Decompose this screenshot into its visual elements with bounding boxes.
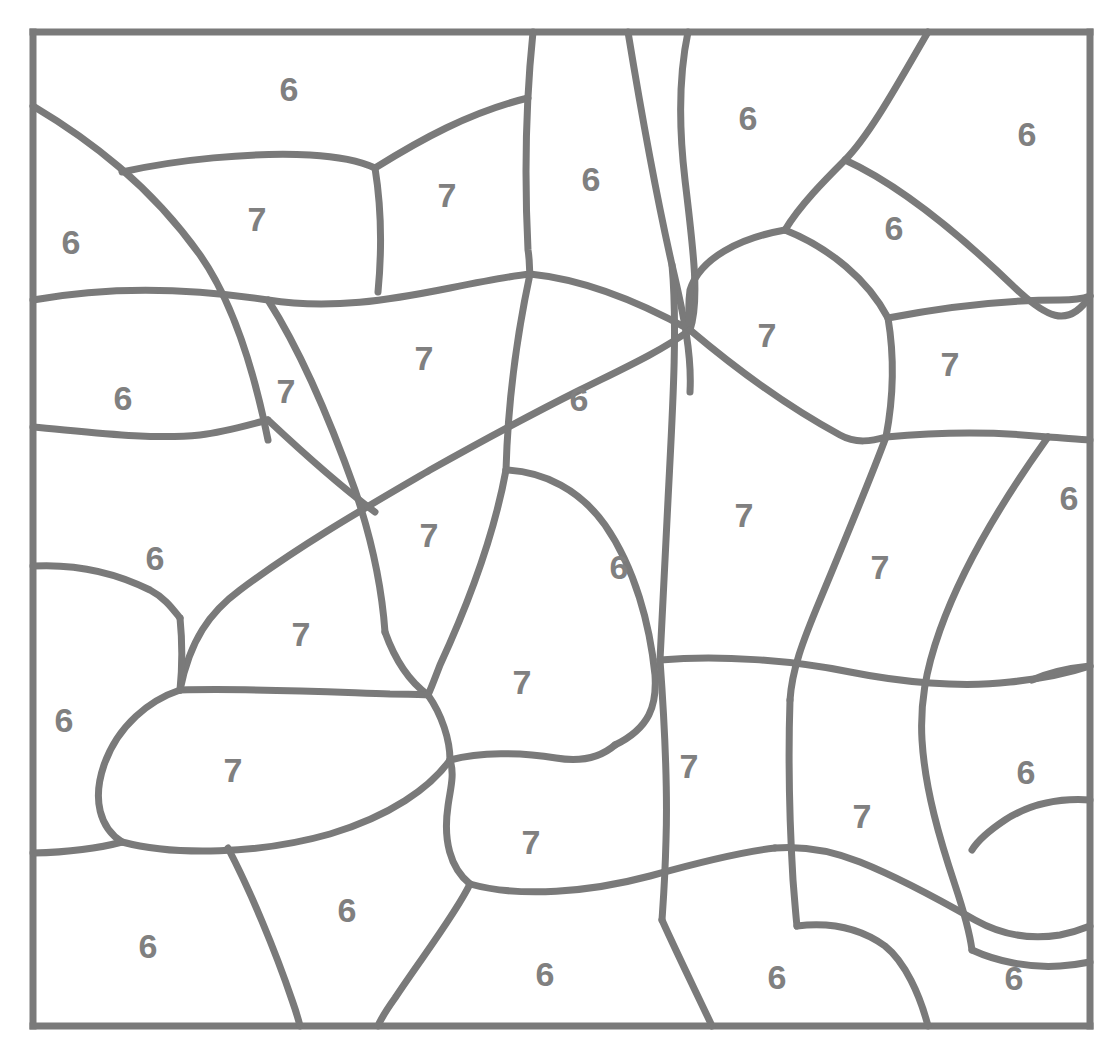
region-number-6: 6	[1005, 959, 1024, 997]
region-number-7: 7	[438, 176, 457, 214]
region-number-6: 6	[610, 548, 629, 586]
region-number-6: 6	[280, 70, 299, 108]
region-number-7: 7	[415, 339, 434, 377]
region-number-6: 6	[582, 160, 601, 198]
region-number-7: 7	[513, 663, 532, 701]
region-number-6: 6	[885, 209, 904, 247]
region-number-6: 6	[146, 539, 165, 577]
region-number-7: 7	[941, 345, 960, 383]
region-number-7: 7	[871, 548, 890, 586]
region-number-6: 6	[739, 99, 758, 137]
region-number-7: 7	[758, 316, 777, 354]
region-number-7: 7	[680, 747, 699, 785]
region-number-6: 6	[114, 379, 133, 417]
region-number-6: 6	[62, 223, 81, 261]
region-number-7: 7	[735, 496, 754, 534]
region-number-7: 7	[292, 615, 311, 653]
region-number-6: 6	[139, 927, 158, 965]
region-number-6: 6	[1060, 479, 1079, 517]
region-number-7: 7	[522, 823, 541, 861]
region-number-7: 7	[277, 372, 296, 410]
region-number-6: 6	[1017, 753, 1036, 791]
region-number-6: 6	[768, 958, 787, 996]
region-number-6: 6	[338, 891, 357, 929]
worksheet-page: 667766666777766776677677767766666	[0, 0, 1103, 1046]
region-number-6: 6	[570, 380, 589, 418]
region-number-7: 7	[853, 797, 872, 835]
region-number-6: 6	[536, 955, 555, 993]
region-number-6: 6	[55, 701, 74, 739]
region-number-7: 7	[248, 200, 267, 238]
region-number-7: 7	[420, 516, 439, 554]
region-number-6: 6	[1018, 115, 1037, 153]
color-by-number-mosaic: 667766666777766776677677767766666	[0, 0, 1103, 1046]
region-number-7: 7	[224, 751, 243, 789]
